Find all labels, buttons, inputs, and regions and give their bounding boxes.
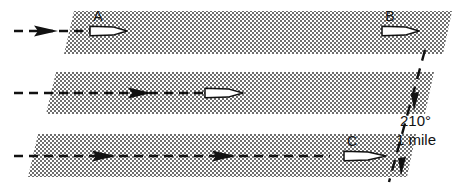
band-bottom: C xyxy=(14,133,416,177)
bearing-label: 210° xyxy=(400,112,431,129)
distance-label: 1 mile xyxy=(396,131,436,148)
band-label-c: C xyxy=(347,133,357,149)
band-top: A B xyxy=(14,8,452,54)
diagram-canvas: A B xyxy=(0,0,452,190)
band-middle xyxy=(14,72,434,114)
band-label-a: A xyxy=(93,8,103,24)
band-label-b: B xyxy=(385,8,394,24)
diagram-svg: A B xyxy=(0,0,452,190)
